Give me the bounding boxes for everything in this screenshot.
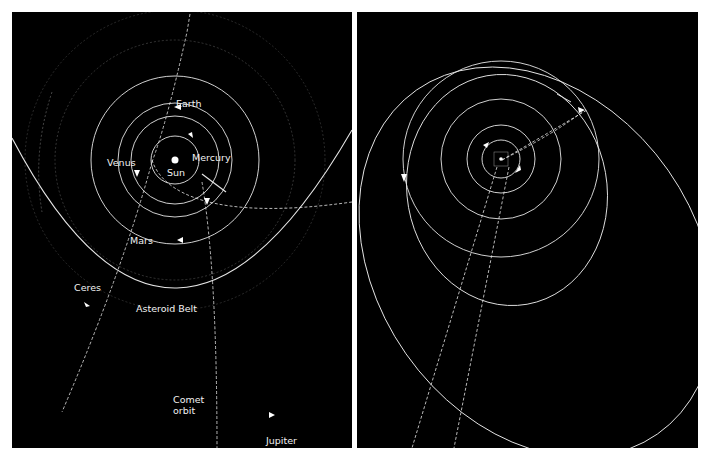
label-comet-orbit: Comet orbit — [173, 394, 204, 416]
inner-orbits-diagram — [12, 12, 352, 448]
label-mercury: Mercury — [192, 152, 231, 163]
inner-solar-system-panel: Earth Venus Mercury Sun Mars Ceres Aster… — [12, 12, 352, 448]
label-venus: Venus — [107, 157, 136, 168]
label-earth: Earth — [176, 98, 201, 109]
sun-dot — [499, 157, 503, 161]
sun-dot — [172, 157, 179, 164]
ceres-arrow-icon — [84, 302, 90, 307]
label-ceres: Ceres — [74, 282, 101, 293]
label-mars: Mars — [130, 235, 153, 246]
venus-arrow-icon — [134, 170, 140, 177]
label-asteroid-belt: Asteroid Belt — [136, 303, 197, 314]
outer-orbits-diagram — [357, 12, 698, 448]
label-jupiter: Jupiter — [266, 435, 297, 446]
label-sun: Sun — [167, 167, 185, 178]
jupiter-arrow-icon — [269, 412, 275, 418]
outer-solar-system-panel — [357, 12, 698, 448]
mercury-arrow-icon — [188, 132, 193, 138]
jupiter-orbit — [12, 130, 352, 288]
eris-orbit — [357, 12, 698, 448]
mars-arrow-icon — [177, 237, 183, 243]
jupiter-arrow-icon — [515, 165, 521, 173]
